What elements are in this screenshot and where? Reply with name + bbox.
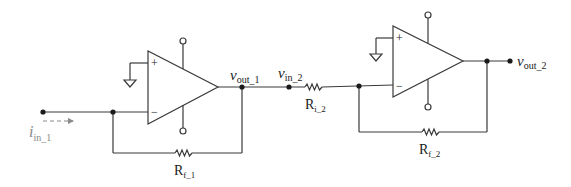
input-terminal-node	[40, 109, 45, 114]
opamp-1-vminus-terminal-icon	[180, 128, 186, 134]
opamp-2-vplus-terminal-icon	[425, 12, 431, 18]
opamp-2-vminus-terminal-icon	[425, 104, 431, 110]
opamp-1-plus-sign: +	[151, 56, 158, 70]
label-v-out-2: vout_2	[517, 53, 546, 71]
resistor-rf2-icon	[422, 129, 439, 135]
label-r-i-2: Ri_2	[305, 97, 326, 114]
label-v-out-1: vout_1	[230, 67, 259, 85]
opamp-1-vplus-terminal-icon	[180, 38, 186, 44]
ground-1-icon	[124, 80, 136, 87]
label-r-f-2: Rf_2	[419, 142, 440, 159]
opamp-1-minus-sign: −	[151, 105, 158, 119]
label-v-in-2: vin_2	[278, 65, 302, 83]
ground-2-icon	[370, 54, 382, 61]
opamp-2-minus-sign: −	[396, 79, 403, 93]
resistor-rf1-icon	[175, 150, 192, 156]
circuit-diagram: + − + − iin_1 vout_1 vin_2 vout_2 Rf_1 R…	[0, 0, 571, 187]
vin2-node	[286, 84, 291, 89]
vout1-node	[239, 84, 244, 89]
label-i-in-1: iin_1	[29, 123, 51, 143]
opamp-2-plus-sign: +	[396, 31, 403, 45]
label-r-f-1: Rf_1	[174, 163, 195, 180]
junction-node-2	[356, 83, 361, 88]
resistor-ri2-icon	[305, 84, 322, 90]
junction-node-3	[484, 58, 489, 63]
vout2-terminal-node	[507, 58, 512, 63]
junction-node-1	[110, 109, 115, 114]
